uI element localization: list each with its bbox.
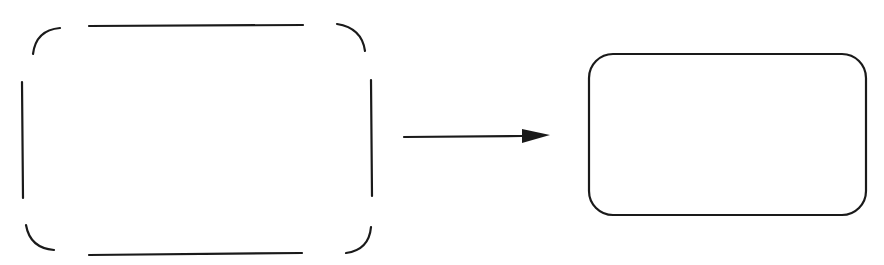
left-edge-segment: [22, 82, 23, 198]
broken-rounded-rectangle: [22, 24, 372, 255]
transform-arrow: [404, 129, 550, 143]
complete-rounded-rectangle: [589, 54, 866, 215]
diagram-svg: [0, 0, 884, 265]
bottom-left-corner-arc: [26, 225, 54, 250]
rounded-rectangle-shape: [589, 54, 866, 215]
top-edge-segment: [89, 25, 303, 26]
top-right-corner-arc: [337, 24, 365, 51]
diagram-canvas: [0, 0, 884, 265]
bottom-edge-segment: [89, 253, 302, 255]
right-edge-segment: [371, 80, 372, 196]
arrow-head-icon: [522, 129, 550, 143]
bottom-right-corner-arc: [346, 227, 371, 253]
top-left-corner-arc: [33, 28, 60, 54]
arrow-shaft: [404, 136, 522, 137]
